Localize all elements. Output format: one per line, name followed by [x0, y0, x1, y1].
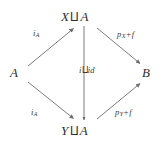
node-bottom-operand: A [80, 123, 88, 138]
node-b: B [142, 66, 150, 79]
edge-label-tail: id [88, 65, 95, 75]
node-x-coproduct-a: X⨿A [61, 10, 89, 23]
edge-label-subscript: A [34, 111, 38, 117]
edge-label-i-a-upper: iA [33, 29, 40, 38]
node-left-symbol: A [10, 65, 18, 80]
node-a: A [10, 66, 18, 79]
edge-label-px-plus-f: pX+f [117, 30, 134, 39]
node-top-operand: A [81, 9, 89, 24]
coproduct-icon: ⨿ [69, 10, 80, 24]
edge-label-i-coproduct-id: i⨿id [79, 66, 95, 75]
coproduct-icon: ⨿ [69, 124, 80, 138]
node-y-coproduct-a: Y⨿A [61, 124, 88, 137]
edge-label-subscript: A [36, 32, 40, 38]
node-right-symbol: B [142, 65, 150, 80]
commutative-diagram: X⨿A Y⨿A A B iA iA pX+f pY+f i⨿id [0, 0, 163, 145]
node-bottom-symbol: Y [61, 123, 69, 138]
edge-label-tail: f [129, 107, 132, 117]
edge-label-i-a-lower: iA [31, 108, 38, 117]
node-top-symbol: X [61, 9, 69, 24]
edge-label-py-plus-f: pY+f [115, 108, 132, 117]
edge-label-subscript: X [121, 33, 125, 39]
edge-label-tail: f [132, 29, 135, 39]
